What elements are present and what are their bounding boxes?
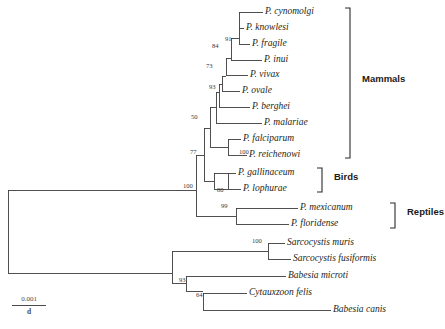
- support-value-100-falciparum: 100: [239, 149, 249, 156]
- taxon-label-p-vivax: P. vivax: [250, 70, 279, 80]
- tree-branch-lines: [0, 0, 445, 329]
- support-value-100-sarcocystis: 100: [252, 238, 262, 245]
- taxon-label-p-berghei: P. berghei: [252, 102, 290, 112]
- taxon-label-p-knowlesi: P. knowlesi: [246, 23, 289, 33]
- taxon-label-cytauxzoon-felis: Cytauxzoon felis: [249, 288, 312, 298]
- taxon-label-babesia-canis: Babesia canis: [333, 305, 386, 315]
- taxon-label-babesia-microti: Babesia microti: [288, 271, 348, 281]
- support-value-100-plasmodium: 100: [183, 183, 193, 190]
- taxon-label-p-cynomolgi: P. cynomolgi: [265, 7, 314, 17]
- taxon-label-p-reichenowi: P. reichenowi: [249, 150, 300, 160]
- phylogenetic-tree-figure: P. cynomolgi P. knowlesi P. fragile P. i…: [0, 0, 445, 329]
- scale-bar: 0.001 d: [6, 296, 52, 316]
- taxon-label-sarcocystis-muris: Sarcocystis muris: [287, 238, 354, 248]
- support-value-50: 50: [191, 114, 198, 121]
- support-value-84: 84: [212, 43, 219, 50]
- taxon-label-p-floridense: P. floridense: [291, 219, 338, 229]
- taxon-label-p-mexicanum: P. mexicanum: [300, 203, 353, 213]
- scale-bar-denominator: d: [6, 307, 52, 316]
- support-value-77: 77: [190, 149, 197, 156]
- taxon-label-sarcocystis-fusiformis: Sarcocystis fusiformis: [293, 254, 376, 264]
- group-label-birds: Birds: [334, 172, 358, 182]
- support-value-93: 93: [209, 84, 216, 91]
- support-value-91: 91: [225, 36, 232, 43]
- support-value-80: 80: [217, 187, 224, 194]
- taxon-label-p-fragile: P. fragile: [252, 39, 287, 49]
- support-value-73: 73: [206, 63, 213, 70]
- group-label-reptiles: Reptiles: [407, 207, 444, 217]
- support-value-93-piroplasm: 93: [179, 277, 186, 284]
- scale-bar-rule: [12, 305, 46, 306]
- taxon-label-p-inui: P. inui: [264, 55, 288, 65]
- taxon-label-p-gallinaceum: P. gallinaceum: [238, 168, 294, 178]
- taxon-label-p-malariae: P. malariae: [264, 118, 308, 128]
- taxon-label-p-ovale: P. ovale: [242, 86, 272, 96]
- scale-bar-numerator: 0.001: [6, 296, 52, 304]
- taxon-label-p-falciparum: P. falciparum: [243, 134, 294, 144]
- support-value-64: 64: [196, 292, 203, 299]
- support-value-99: 99: [221, 203, 228, 210]
- group-label-mammals: Mammals: [362, 74, 405, 84]
- taxon-label-p-lophurae: P. lophurae: [243, 184, 287, 194]
